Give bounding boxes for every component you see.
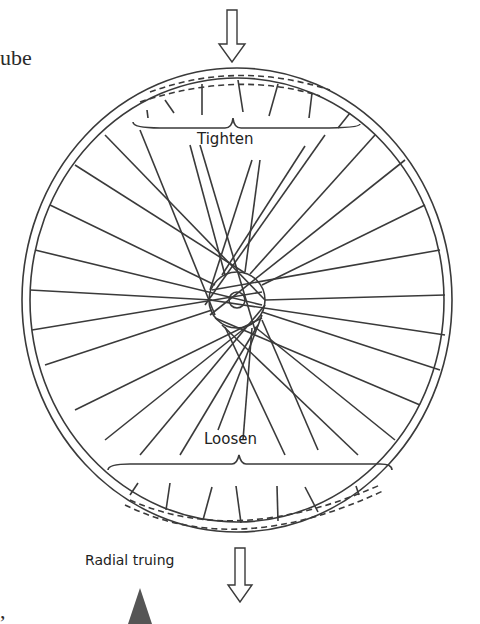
brace-loosen [108, 455, 392, 470]
caption-radial-truing: Radial truing [85, 552, 174, 568]
down-arrow-top-icon [219, 10, 245, 62]
spokes [30, 130, 445, 455]
label-tighten: Tighten [197, 130, 254, 148]
wheel-diagram [0, 0, 480, 624]
label-loosen: Loosen [204, 430, 257, 448]
brace-tighten [133, 118, 360, 128]
rim-dashed-bottom [125, 490, 385, 529]
pointer-triangle-icon [128, 588, 152, 624]
down-arrow-bottom-icon [228, 548, 252, 602]
